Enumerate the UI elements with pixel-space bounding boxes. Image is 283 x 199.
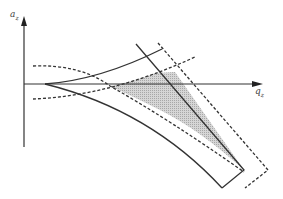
y-axis-label-sub: z: [15, 14, 18, 21]
solid-lower-curve: [45, 84, 222, 188]
x-axis-label-sub: z: [261, 91, 264, 98]
x-axis-label: qz: [255, 86, 264, 98]
y-axis-label: az: [10, 9, 19, 21]
diagram-canvas: [0, 0, 283, 199]
shaded-stability-region: [110, 72, 244, 170]
y-axis-arrow-icon: [21, 16, 27, 26]
